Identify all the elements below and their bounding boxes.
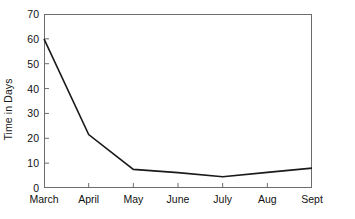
data-series-line — [44, 39, 312, 177]
y-tick-label: 50 — [17, 58, 39, 69]
y-tick-label: 30 — [17, 108, 39, 119]
plot-svg — [44, 14, 312, 188]
x-tick-label: May — [123, 194, 143, 205]
x-tick-label: April — [78, 194, 99, 205]
x-tick-label: July — [213, 194, 232, 205]
x-axis-ticks — [89, 183, 268, 188]
line-chart-figure: Time in Days 010203040506070 MarchAprilM… — [0, 0, 355, 219]
x-tick-label: Aug — [258, 194, 277, 205]
y-tick-label: 0 — [17, 183, 39, 194]
y-tick-label: 60 — [17, 34, 39, 45]
y-tick-label: 40 — [17, 83, 39, 94]
y-axis-tick-labels: 010203040506070 — [13, 14, 39, 188]
x-tick-label: June — [167, 194, 190, 205]
y-tick-label: 10 — [17, 158, 39, 169]
y-tick-label: 20 — [17, 133, 39, 144]
y-axis-ticks — [44, 39, 49, 163]
x-tick-label: March — [29, 194, 58, 205]
x-tick-label: Sept — [301, 194, 323, 205]
x-axis-tick-labels: MarchAprilMayJuneJulyAugSept — [44, 194, 312, 210]
y-tick-label: 70 — [17, 9, 39, 20]
